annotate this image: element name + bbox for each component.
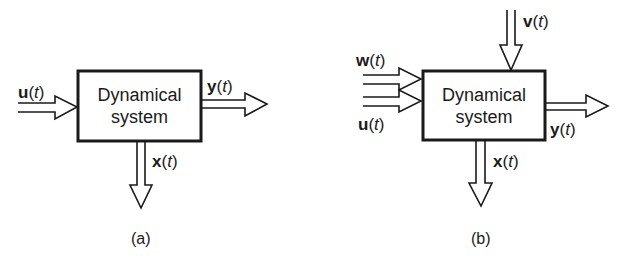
signal-label-v-b: v(t) <box>523 13 549 30</box>
signal-label-w-b: w(t) <box>356 52 385 69</box>
signal-label-y-a: y(t) <box>207 78 233 95</box>
signal-label-x-a: x(t) <box>152 153 178 170</box>
signal-var: u <box>358 115 368 134</box>
block-line2: system <box>423 106 545 128</box>
arrow-v-b <box>500 10 522 70</box>
caption-a: (a) <box>131 230 151 248</box>
diagram-canvas <box>0 0 621 262</box>
block-label-a: Dynamical system <box>78 84 201 128</box>
paren: ) <box>172 152 178 171</box>
paren: ) <box>380 51 386 70</box>
block-label-b: Dynamical system <box>423 84 545 128</box>
paren: ) <box>39 83 45 102</box>
arrow-x-b <box>469 141 492 206</box>
paren: ) <box>227 77 233 96</box>
arrow-y-a <box>202 93 267 116</box>
arrow-w-b <box>363 68 421 90</box>
paren: ) <box>513 152 519 171</box>
signal-label-u-b: u(t) <box>358 116 384 133</box>
block-line1: Dynamical <box>423 84 545 106</box>
paren: ) <box>570 120 576 139</box>
signal-var: u <box>18 83 28 102</box>
block-line1: Dynamical <box>78 84 201 106</box>
signal-label-u-a: u(t) <box>18 84 44 101</box>
signal-label-x-b: x(t) <box>493 153 519 170</box>
signal-label-y-b: y(t) <box>550 121 576 138</box>
paren: ) <box>379 115 385 134</box>
arrow-x-a <box>130 142 152 208</box>
signal-var: w <box>356 51 369 70</box>
arrow-u-b <box>363 90 421 112</box>
paren: ) <box>543 12 549 31</box>
arrow-y-b <box>546 95 608 117</box>
block-line2: system <box>78 106 201 128</box>
caption-b: (b) <box>471 230 491 248</box>
